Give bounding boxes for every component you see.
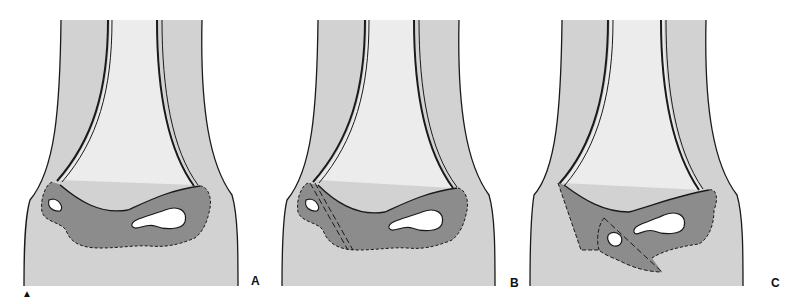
bone-diagram-c bbox=[524, 0, 786, 304]
triangle-marker-icon: ▲ bbox=[22, 289, 32, 299]
panel-label-b: B bbox=[510, 276, 519, 290]
panel-b: B bbox=[262, 0, 524, 304]
bone-diagram-a bbox=[0, 0, 262, 304]
bone-diagram-b bbox=[262, 0, 524, 304]
panel-label-c: C bbox=[771, 276, 780, 290]
panel-label-a: A bbox=[251, 274, 260, 288]
panel-c: C bbox=[524, 0, 786, 304]
panel-a: A bbox=[0, 0, 262, 304]
